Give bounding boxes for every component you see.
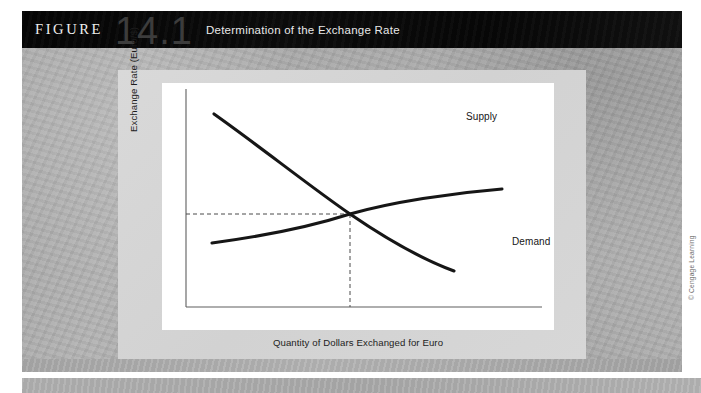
bottom-band-lower (22, 378, 701, 393)
x-axis-label: Quantity of Dollars Exchanged for Euro (162, 337, 554, 348)
figure-header-bar: FIGURE 14.1 Determination of the Exchang… (22, 11, 682, 48)
supply-curve (214, 114, 454, 271)
supply-curve-label: Supply (466, 111, 497, 122)
y-axis-label: Exchange Rate (Euro/$) (128, 0, 139, 132)
demand-curve-label: Demand (512, 236, 550, 247)
figure-word-label: FIGURE (35, 21, 103, 38)
figure-page: FIGURE 14.1 Determination of the Exchang… (0, 0, 701, 393)
figure-number: 14.1 (115, 12, 193, 49)
bottom-band-upper (22, 359, 682, 372)
demand-curve (212, 189, 502, 243)
figure-title: Determination of the Exchange Rate (206, 24, 400, 36)
copyright-credit: © Cengage Learning (688, 235, 695, 300)
